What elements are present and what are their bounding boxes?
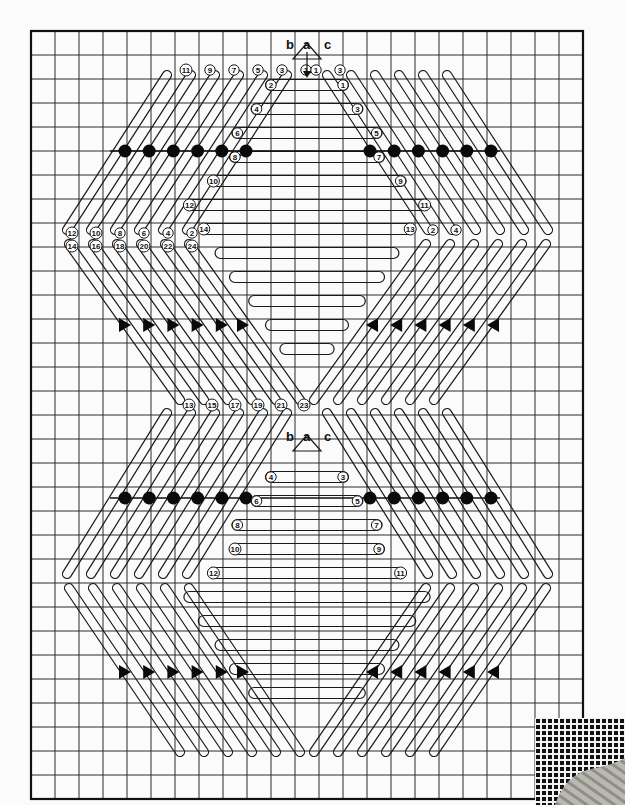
point-label-upper: 2 <box>190 229 195 238</box>
bar-label-left: 8 <box>235 521 240 530</box>
bar-label-left: 8 <box>233 153 238 162</box>
stitch-dot-icon <box>119 145 132 158</box>
bar-label-right: 3 <box>341 473 346 482</box>
bar-label-left: 10 <box>231 545 240 554</box>
bar-label-right: 9 <box>398 177 403 186</box>
point-label-right: 2 <box>431 226 436 235</box>
point-label-upper: 10 <box>92 229 101 238</box>
thread-letter-b: b <box>286 429 294 444</box>
bar-label-left: 10 <box>209 177 218 186</box>
bar-label-right: 7 <box>374 521 379 530</box>
stitch-dot-icon <box>460 145 473 158</box>
point-label-lower: 22 <box>164 242 173 251</box>
horizontal-bar-stitch <box>230 272 385 283</box>
diagonal-label-left: 5 <box>256 66 261 75</box>
arrow-left-icon <box>463 665 475 679</box>
arrow-left-icon <box>390 665 402 679</box>
arrow-left-icon <box>439 665 451 679</box>
arrow-right-icon <box>167 318 179 332</box>
stitch-dot-icon <box>364 492 377 505</box>
arrow-left-icon <box>487 665 499 679</box>
bar-label-left: 14 <box>199 225 208 234</box>
point-label-upper: 8 <box>118 229 123 238</box>
stitch-dot-icon <box>436 492 449 505</box>
bar-label-right: 13 <box>406 225 415 234</box>
stitch-dot-icon <box>388 145 401 158</box>
point-label-lower: 16 <box>92 242 101 251</box>
thread-letter-a: a <box>303 37 311 52</box>
stitch-dot-icon <box>167 145 180 158</box>
horizontal-bar-stitch <box>215 640 399 651</box>
diagonal-label-left: 9 <box>208 66 213 75</box>
arrow-left-icon <box>390 318 402 332</box>
point-label-lower: 20 <box>140 242 149 251</box>
arrow-right-icon <box>119 665 131 679</box>
horizontal-bar-stitch <box>230 544 385 555</box>
arrow-left-icon <box>366 665 378 679</box>
stitch-dot-icon <box>215 492 228 505</box>
horizontal-bar-stitch <box>266 472 349 483</box>
bar-label-right: 11 <box>420 201 429 210</box>
point-label-upper: 12 <box>68 229 77 238</box>
horizontal-bar-stitch <box>215 248 399 259</box>
stitch-dot-icon <box>119 492 132 505</box>
bar-label-right: 5 <box>374 129 379 138</box>
arrow-right-icon <box>216 318 228 332</box>
bar-label-left: 12 <box>209 569 218 578</box>
bar-label-left: 6 <box>254 497 259 506</box>
stitch-dot-icon <box>191 492 204 505</box>
diagonal-label-left: 11 <box>182 66 191 75</box>
thread-letter-a: a <box>303 429 311 444</box>
stitch-dot-icon <box>485 492 498 505</box>
stitch-dot-icon <box>412 492 425 505</box>
diagonal-label-right: 1 <box>314 66 319 75</box>
bar-label-left: 4 <box>254 105 259 114</box>
arrow-left-icon <box>414 665 426 679</box>
arrow-left-icon <box>439 318 451 332</box>
bar-label-left: 2 <box>269 81 274 90</box>
diagonal-label-lower: 15 <box>208 401 217 410</box>
diagonal-label-lower: 17 <box>231 401 240 410</box>
point-label-upper: 4 <box>166 229 171 238</box>
horizontal-bar-stitch <box>280 344 334 355</box>
arrow-right-icon <box>216 665 228 679</box>
point-label-lower: 14 <box>68 242 77 251</box>
arrow-left-icon <box>366 318 378 332</box>
canvas-grid <box>31 31 583 799</box>
yarn-swatch-photo <box>535 718 625 805</box>
diagonal-label-left: 3 <box>280 66 285 75</box>
stitch-dot-icon <box>143 492 156 505</box>
stitch-dot-icon <box>240 145 253 158</box>
arrow-right-icon <box>143 665 155 679</box>
horizontal-bar-stitch <box>184 592 430 603</box>
bar-label-right: 3 <box>355 105 360 114</box>
arrow-right-icon <box>167 665 179 679</box>
horizontal-bar-stitch <box>198 224 415 235</box>
diagonal-label-lower: 19 <box>254 401 263 410</box>
diagonal-label-lower: 21 <box>277 401 286 410</box>
arrow-left-icon <box>487 318 499 332</box>
horizontal-bar-stitch <box>251 496 363 507</box>
bar-label-left: 4 <box>269 473 274 482</box>
bar-label-right: 1 <box>341 81 346 90</box>
arrow-left-icon <box>463 318 475 332</box>
stitch-dot-icon <box>240 492 253 505</box>
thread-letter-c: c <box>324 429 331 444</box>
horizontal-bar-stitch <box>198 616 415 627</box>
stitch-dot-icon <box>167 492 180 505</box>
stitch-dot-icon <box>191 145 204 158</box>
horizontal-bar-stitch <box>208 176 406 187</box>
mesh-canvas-icon <box>535 718 625 805</box>
diagonal-label-left: 7 <box>232 66 237 75</box>
direction-markers <box>110 145 500 680</box>
stitch-dot-icon <box>412 145 425 158</box>
arrow-right-icon <box>192 318 204 332</box>
bar-label-right: 11 <box>396 569 405 578</box>
bar-label-left: 6 <box>235 129 240 138</box>
stitch-dot-icon <box>485 145 498 158</box>
stitch-dot-icon <box>436 145 449 158</box>
stitch-dot-icon <box>143 145 156 158</box>
point-label-upper: 6 <box>142 229 147 238</box>
bar-label-left: 12 <box>185 201 194 210</box>
horizontal-bar-stitch <box>249 296 366 307</box>
